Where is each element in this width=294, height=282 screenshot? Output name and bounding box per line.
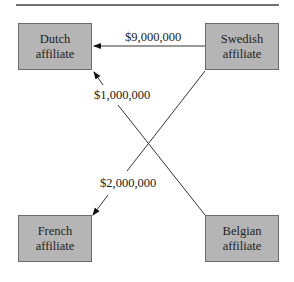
- french-affiliate-name: French: [38, 224, 73, 239]
- arrow-belgian-to-dutch-segment: [118, 105, 205, 215]
- belgian-affiliate-box: Belgian affiliate: [205, 215, 279, 262]
- french-affiliate-box: French affiliate: [18, 215, 92, 262]
- arrow-swedish-to-french-head: [93, 195, 108, 215]
- belgian-affiliate-name: Belgian: [223, 224, 262, 239]
- flow-amount-9m: $9,000,000: [125, 30, 181, 44]
- dutch-affiliate-sub: affiliate: [36, 47, 75, 62]
- arrow-swedish-to-french-segment: [127, 71, 205, 171]
- swedish-affiliate-sub: affiliate: [223, 47, 262, 62]
- flow-amount-2m: $2,000,000: [100, 176, 156, 190]
- arrow-belgian-to-dutch-head: [94, 72, 103, 85]
- dutch-affiliate-name: Dutch: [40, 32, 71, 47]
- flow-amount-1m: $1,000,000: [94, 88, 150, 102]
- belgian-affiliate-sub: affiliate: [223, 239, 262, 254]
- french-affiliate-sub: affiliate: [36, 239, 75, 254]
- swedish-affiliate-box: Swedish affiliate: [205, 23, 279, 70]
- dutch-affiliate-box: Dutch affiliate: [18, 23, 92, 70]
- swedish-affiliate-name: Swedish: [221, 32, 263, 47]
